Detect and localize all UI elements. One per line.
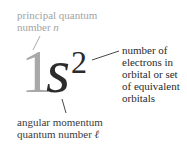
- electrons-leader-line: [92, 51, 119, 60]
- electrons-label-line-5: orbitals: [122, 92, 180, 104]
- electron-count-label: number of electrons in orbital or set of…: [122, 44, 180, 104]
- electrons-label-line-2: electrons in: [122, 56, 180, 68]
- angular-label-prefix: quantum number: [17, 128, 95, 140]
- principal-quantum-number-label: principal quantum number n: [17, 9, 97, 33]
- electrons-label-line-3: orbital or set: [122, 68, 180, 80]
- subshell-letter: s: [46, 40, 70, 102]
- angular-label-line-1: angular momentum: [17, 116, 103, 128]
- electrons-label-line-4: of equivalent: [122, 80, 180, 92]
- angular-label-line-2: quantum number ℓ: [17, 128, 103, 140]
- angular-symbol-ell: ℓ: [95, 128, 100, 140]
- angular-momentum-label: angular momentum quantum number ℓ: [17, 116, 103, 140]
- electrons-label-line-1: number of: [122, 44, 180, 56]
- electron-count-superscript: 2: [71, 46, 87, 78]
- principal-symbol-n: n: [53, 21, 59, 33]
- principal-label-line-2: number n: [17, 21, 97, 33]
- principal-label-line-1: principal quantum: [17, 9, 97, 21]
- principal-label-prefix: number: [17, 21, 53, 33]
